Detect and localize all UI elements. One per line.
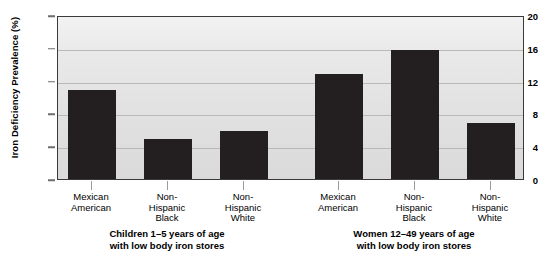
y-tick-mark-0 (48, 179, 55, 181)
bar-children-non-hispanic-black (144, 139, 192, 179)
group-caption-women: Women 12–49 years of age with low body i… (300, 228, 528, 251)
y-axis-title: Iron Deficiency Prevalence (%) (9, 0, 20, 176)
gridline-8 (58, 115, 523, 116)
x-axis-label-children-mexican-american: Mexican American (53, 192, 129, 213)
y-tick-mark-4 (48, 146, 55, 148)
x-tick-mark-3 (243, 181, 244, 190)
x-axis-label-children-non-hispanic-white: Non- Hispanic White (205, 192, 281, 224)
gridline-16 (58, 50, 523, 51)
group-caption-children: Children 1–5 years of age with low body … (53, 228, 281, 251)
x-tick-mark-4 (338, 181, 339, 190)
x-axis-label-children-non-hispanic-black: Non- Hispanic Black (129, 192, 205, 224)
bar-women-non-hispanic-black (391, 50, 439, 179)
x-tick-mark-1 (91, 181, 92, 190)
x-axis-label-women-non-hispanic-white: Non- Hispanic White (452, 192, 528, 224)
bar-chart: Iron Deficiency Prevalence (%) 20 16 12 … (0, 0, 538, 266)
y-tick-mark-8 (48, 114, 55, 116)
x-tick-mark-6 (490, 181, 491, 190)
bar-women-mexican-american (315, 74, 363, 179)
x-axis-label-women-mexican-american: Mexican American (300, 192, 376, 213)
bar-children-mexican-american (68, 90, 116, 179)
y-tick-mark-16 (48, 48, 55, 50)
x-tick-mark-5 (414, 181, 415, 190)
plot-area (57, 16, 524, 180)
x-tick-mark-2 (167, 181, 168, 190)
gridline-4 (58, 148, 523, 149)
y-tick-mark-12 (48, 81, 55, 83)
gridline-12 (58, 83, 523, 84)
y-tick-mark-20 (48, 15, 55, 17)
bar-women-non-hispanic-white (467, 123, 515, 179)
x-axis-label-women-non-hispanic-black: Non- Hispanic Black (376, 192, 452, 224)
bar-children-non-hispanic-white (220, 131, 268, 179)
